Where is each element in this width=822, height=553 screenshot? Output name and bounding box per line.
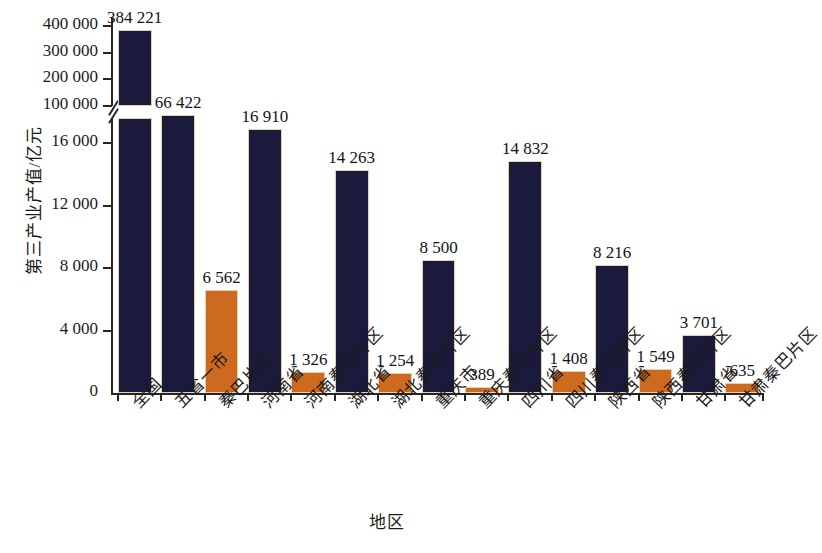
bar-value-label: 6 562 [177,268,267,288]
y-tick-mark: 300 000 [103,52,112,54]
bar-value-label: 384 221 [90,8,180,28]
bar-value-label: 3 701 [654,313,744,333]
y-axis-spine-upper [111,18,113,106]
y-tick-mark: 100 000 [103,105,112,107]
y-tick-mark: 8 000 [103,267,112,269]
y-tick-label: 0 [90,381,99,401]
bar [118,118,152,393]
bar-value-label: 16 910 [220,107,310,127]
plot-area: 100 000200 000300 000400 000 04 0008 000… [113,18,764,393]
y-axis-title: 第三产业产值/亿元 [20,91,45,311]
y-tick-label: 300 000 [43,41,98,61]
y-tick-mark: 4 000 [103,330,112,332]
y-tick-mark: 200 000 [103,78,112,80]
x-axis-category-labels: 全国五省一市秦巴片区河南省河南秦巴片区湖北省湖北秦巴片区重庆市重庆秦巴片区四川省… [113,396,764,506]
bar-value-label: 8 216 [567,243,657,263]
bar-value-label: 66 422 [133,93,223,113]
y-tick-label: 200 000 [43,67,98,87]
bar-value-label: 8 500 [394,238,484,258]
y-tick-label: 16 000 [51,131,98,151]
y-tick-label: 8 000 [60,256,98,276]
y-tick-mark: 16 000 [103,142,112,144]
y-tick-mark: 12 000 [103,205,112,207]
y-axis-spine-lower [111,118,113,394]
x-axis-title: 地区 [0,508,774,533]
bar-value-label: 14 263 [307,148,397,168]
bar-upper-segment [161,115,195,393]
y-tick-label: 100 000 [43,94,98,114]
y-tick-label: 12 000 [51,194,98,214]
y-tick-label: 4 000 [60,319,98,339]
bar-value-label: 14 832 [480,139,570,159]
